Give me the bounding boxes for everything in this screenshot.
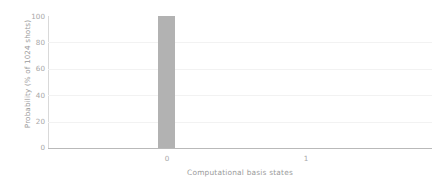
gridline-20: [48, 122, 432, 123]
y-axis-line: [48, 16, 49, 148]
bar-chart: Probability (% of 1024 shots) 100 80 60 …: [0, 0, 445, 188]
x-tick-label-0: 0: [152, 154, 182, 163]
gridline-80: [48, 42, 432, 43]
gridline-60: [48, 69, 432, 70]
y-axis-tick-labels: 100 80 60 40 20 0: [26, 0, 45, 188]
x-axis-label: Computational basis states: [48, 168, 432, 177]
y-tick-label-20: 20: [26, 118, 45, 126]
x-tick-label-1: 1: [291, 154, 321, 163]
gridline-40: [48, 95, 432, 96]
y-tick-label-100: 100: [26, 13, 45, 21]
y-tick-label-0: 0: [26, 144, 45, 152]
y-tick-label-60: 60: [26, 65, 45, 73]
y-tick-label-80: 80: [26, 39, 45, 47]
x-axis-line: [48, 148, 432, 149]
bar-state-0: [158, 16, 175, 148]
plot-area: [48, 16, 432, 148]
y-tick-label-40: 40: [26, 92, 45, 100]
